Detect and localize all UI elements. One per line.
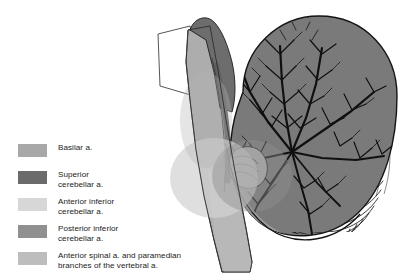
legend-swatch-superior-cerebellar-artery	[18, 171, 47, 184]
legend-item-anterior-spinal-artery: Anterior spinal a. and paramedian branch…	[18, 251, 218, 275]
legend-label-anterior-inferior-cerebellar-artery: Anterior inferior cerebellar a.	[58, 197, 114, 216]
legend-label-superior-cerebellar-artery: Superior cerebellar a.	[58, 170, 103, 189]
legend: Basilar a. Superior cerebellar a. Anteri…	[18, 143, 218, 278]
legend-label-posterior-inferior-cerebellar-artery: Posterior inferior cerebellar a.	[58, 224, 118, 243]
legend-item-basilar-artery: Basilar a.	[18, 143, 218, 167]
legend-swatch-posterior-inferior-cerebellar-artery	[18, 225, 47, 238]
legend-item-superior-cerebellar-artery: Superior cerebellar a.	[18, 170, 218, 194]
legend-swatch-basilar-artery	[18, 144, 47, 157]
legend-label-basilar-artery: Basilar a.	[58, 143, 92, 153]
legend-swatch-anterior-spinal-artery	[18, 252, 47, 265]
legend-label-anterior-spinal-artery: Anterior spinal a. and paramedian branch…	[58, 251, 181, 270]
legend-item-anterior-inferior-cerebellar-artery: Anterior inferior cerebellar a.	[18, 197, 218, 221]
figure-page: Basilar a. Superior cerebellar a. Anteri…	[0, 0, 407, 278]
cerebellum-group	[222, 16, 397, 250]
legend-item-posterior-inferior-cerebellar-artery: Posterior inferior cerebellar a.	[18, 224, 218, 248]
legend-swatch-anterior-inferior-cerebellar-artery	[18, 198, 47, 211]
